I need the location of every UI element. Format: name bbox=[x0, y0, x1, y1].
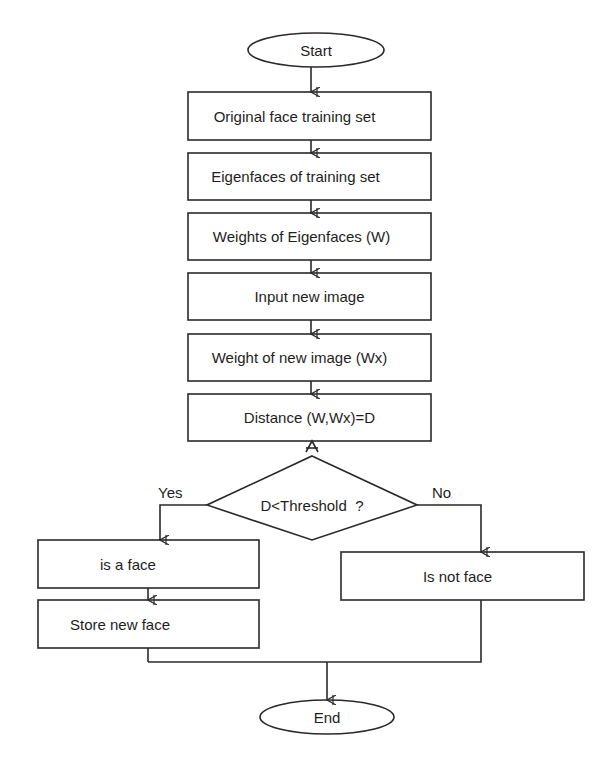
is-face-label: is a face bbox=[38, 540, 259, 588]
arrow-decision-to-distance bbox=[306, 441, 318, 452]
input-image-label: Input new image bbox=[188, 273, 431, 320]
original-set-label: Original face training set bbox=[188, 92, 431, 140]
no-edge-label: No bbox=[432, 483, 451, 502]
end-label: End bbox=[260, 700, 394, 734]
decision-label: D<Threshold ? bbox=[207, 490, 417, 520]
eigenfaces-label: Eigenfaces of training set bbox=[188, 153, 431, 200]
distance-label: Distance (W,Wx)=D bbox=[188, 394, 431, 441]
weight-new-label: Weight of new image (Wx) bbox=[188, 334, 431, 381]
connector-no bbox=[417, 505, 481, 552]
start-label: Start bbox=[248, 33, 384, 67]
yes-edge-label: Yes bbox=[158, 483, 182, 502]
weights-label: Weights of Eigenfaces (W) bbox=[188, 213, 431, 260]
store-face-label: Store new face bbox=[38, 600, 259, 648]
connector-yes bbox=[160, 505, 207, 540]
not-face-label: Is not face bbox=[341, 552, 584, 600]
